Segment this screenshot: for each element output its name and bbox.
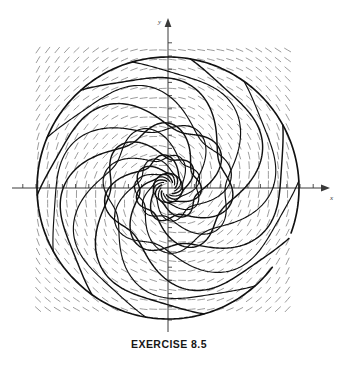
field-dash [229,152,232,158]
field-dash [169,50,176,51]
x-axis-arrowhead [321,185,330,192]
field-dash [140,154,147,156]
field-dash [160,270,167,272]
field-dash [112,269,118,273]
field-dash [45,288,50,293]
field-dash [276,229,280,235]
field-dash [266,48,272,52]
field-dash [227,250,233,254]
field-dash [74,57,79,62]
field-dash [188,222,195,224]
field-dash [102,77,108,81]
field-dash [55,47,59,52]
field-dash [217,49,224,50]
field-dash [228,210,231,216]
field-dash [46,229,48,236]
field-dash [132,220,136,226]
field-dash [140,50,147,51]
field-dash [239,162,240,169]
field-dash [112,134,117,139]
field-dash [36,278,40,283]
field-dash [55,268,60,273]
field-dash [209,191,212,197]
field-dash [256,307,262,311]
field-dash [64,288,70,292]
field-dash [102,87,108,90]
field-dash [217,279,223,283]
field-dash [93,115,98,120]
field-dash [287,162,289,169]
field-dash [36,85,40,91]
field-dash [238,152,240,159]
field-dash [141,259,147,263]
field-dash [46,66,50,72]
field-dash [140,279,147,281]
field-dash [198,279,205,281]
field-dash [218,230,224,234]
field-dash [169,107,176,108]
field-dash [94,162,98,168]
field-dash [267,210,269,217]
field-dash [266,86,271,91]
field-dash [75,229,78,235]
field-dash [86,200,87,207]
field-dash [57,210,58,217]
field-dash [112,259,117,264]
field-dash [74,67,79,72]
field-dash [217,77,223,80]
field-dash [191,181,192,188]
field-dash [55,57,59,63]
field-dash [248,191,250,198]
field-dash [285,297,290,302]
field-dash [54,307,60,311]
field-dash [105,219,107,226]
field-dash [227,68,234,71]
field-dash [93,67,99,71]
field-dash [74,298,80,302]
field-dash [131,97,138,98]
field-dash [57,191,58,198]
field-dash [256,86,261,91]
field-dash [56,239,59,245]
solution-curve [115,159,299,272]
field-dash [248,143,251,150]
field-dash [286,229,289,235]
field-dash [140,68,147,70]
field-dash [45,297,50,301]
field-dash [276,268,279,274]
field-dash [102,67,108,71]
field-dash [248,200,250,207]
field-dash [121,107,128,109]
field-dash [75,172,77,179]
field-dash [266,258,270,264]
field-dash [287,171,288,178]
field-dash [188,68,195,70]
field-dash [198,260,205,262]
field-dash [131,269,137,272]
field-dash [285,307,290,312]
field-dash [256,77,261,81]
field-dash [122,134,128,138]
field-dash [55,86,60,91]
field-dash [150,279,157,281]
field-dash [112,116,118,119]
field-dash [228,134,232,140]
field-dash [55,278,60,283]
field-dash [37,219,38,226]
figure-caption: EXERCISE 8.5 [0,337,338,351]
field-dash [180,172,183,178]
field-dash [45,278,50,283]
field-dash [151,230,157,234]
field-dash [93,143,97,148]
field-dash [210,152,212,159]
field-dash [285,48,291,52]
field-dash [121,58,127,61]
field-dash [131,299,138,301]
field-dash [248,152,250,159]
field-dash [179,202,185,205]
field-dash [36,76,39,82]
field-dash [237,278,242,283]
field-dash [266,297,271,302]
field-dash [47,210,48,217]
x-axis-label: x [329,194,334,202]
